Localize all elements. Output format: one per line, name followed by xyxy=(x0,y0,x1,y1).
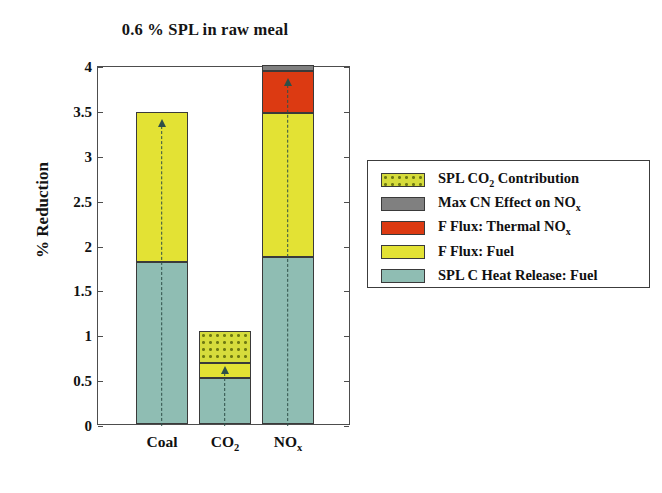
y-tick-label: 1 xyxy=(85,328,93,345)
y-tick-mark-right xyxy=(344,381,349,382)
y-tick-mark-right xyxy=(344,426,349,427)
x-tick-label-nox: NOx xyxy=(274,433,303,453)
y-tick-mark xyxy=(98,67,103,68)
y-tick-mark xyxy=(98,157,103,158)
y-tick-mark xyxy=(98,202,103,203)
plot-area: 00.511.522.533.54 CoalCO2NOx xyxy=(97,66,350,425)
legend-item[interactable]: SPL CO2 Contribution xyxy=(368,168,649,191)
swatch-f-flux-thermal-nox xyxy=(381,221,425,235)
y-tick-label: 1.5 xyxy=(73,283,92,300)
bar-segment[interactable] xyxy=(199,331,251,363)
y-tick-mark-right xyxy=(344,157,349,158)
bar-segment[interactable] xyxy=(262,65,314,71)
legend-item[interactable]: F Flux: Thermal NOx xyxy=(368,216,649,239)
y-tick-label: 0.5 xyxy=(73,373,92,390)
legend-label: SPL CO2 Contribution xyxy=(438,170,579,189)
y-tick-mark-right xyxy=(344,291,349,292)
annotation-arrow-head xyxy=(284,78,292,86)
annotation-arrow-head xyxy=(158,119,166,127)
legend-item[interactable]: F Flux: Fuel xyxy=(368,240,649,263)
y-tick-mark-right xyxy=(344,336,349,337)
y-tick-mark-right xyxy=(344,67,349,68)
y-tick-label: 3.5 xyxy=(73,103,92,120)
y-tick-mark xyxy=(98,381,103,382)
y-tick-mark xyxy=(98,291,103,292)
chart-legend: SPL CO2 ContributionMax CN Effect on NOx… xyxy=(367,160,650,288)
annotation-arrow-head xyxy=(221,366,229,374)
y-tick-mark-right xyxy=(344,247,349,248)
legend-label: F Flux: Thermal NOx xyxy=(438,218,571,237)
y-tick-label: 0 xyxy=(85,418,93,435)
x-tick-label-coal: Coal xyxy=(147,433,178,451)
chart-figure: 0.6 % SPL in raw meal % Reduction 00.511… xyxy=(0,0,662,493)
y-tick-label: 4 xyxy=(85,59,93,76)
y-tick-label: 2.5 xyxy=(73,193,92,210)
y-tick-label: 2 xyxy=(85,238,93,255)
annotation-arrow-line xyxy=(161,126,162,426)
y-tick-mark xyxy=(98,426,103,427)
annotation-arrow-line xyxy=(224,373,225,426)
legend-label: Max CN Effect on NOx xyxy=(438,194,581,213)
legend-label: SPL C Heat Release: Fuel xyxy=(438,267,597,284)
y-tick-mark-right xyxy=(344,112,349,113)
y-tick-mark xyxy=(98,336,103,337)
annotation-arrow-line xyxy=(287,85,288,426)
legend-item[interactable]: SPL C Heat Release: Fuel xyxy=(368,264,649,287)
swatch-f-flux-fuel xyxy=(381,245,425,259)
swatch-spl-c-heat-release-fuel xyxy=(381,269,425,283)
y-axis-title: % Reduction xyxy=(33,125,53,295)
y-tick-mark xyxy=(98,112,103,113)
chart-title: 0.6 % SPL in raw meal xyxy=(55,20,355,40)
legend-label: F Flux: Fuel xyxy=(438,243,514,260)
swatch-spl-co2-contribution xyxy=(381,173,425,187)
y-tick-mark-right xyxy=(344,202,349,203)
y-tick-mark xyxy=(98,247,103,248)
y-tick-label: 3 xyxy=(85,148,93,165)
x-tick-label-co2: CO2 xyxy=(211,433,240,453)
legend-item[interactable]: Max CN Effect on NOx xyxy=(368,192,649,215)
swatch-max-cn-effect xyxy=(381,197,425,211)
